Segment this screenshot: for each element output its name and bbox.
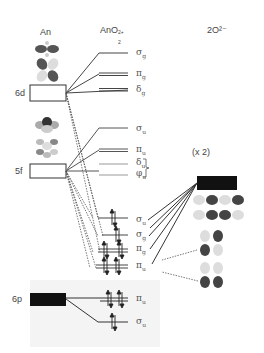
mo-label-sigma-g-bonding: σg xyxy=(136,229,146,241)
ao-label-6p: 6p xyxy=(12,294,22,304)
ao-label-6d: 6d xyxy=(15,88,25,98)
mo-label-sigma-u-5f: σu xyxy=(136,123,146,135)
mo-label-sigma-u-bonding: σu xyxy=(136,214,146,226)
mo-label-pi-g-6d: πg xyxy=(136,68,146,80)
mo-label-pi-u-bonding: πu xyxy=(136,260,146,272)
mo-label-sigma-u-6p: σu xyxy=(136,316,146,328)
ligand-orbital-pictures xyxy=(193,195,244,288)
5f-orbital-pictures xyxy=(35,117,59,158)
ligand-multiplier: (x 2) xyxy=(192,147,210,157)
6p-background xyxy=(30,280,160,347)
ao-label-5f: 5f xyxy=(15,166,23,176)
mo-label-sigma-g-6d: σg xyxy=(136,47,146,59)
mo-label-phi-u-5f: φu xyxy=(136,168,146,180)
ligand-box xyxy=(197,176,237,190)
6p-box xyxy=(30,293,66,306)
5f-box xyxy=(30,164,66,178)
mo-label-pi-u-5f: πu xyxy=(136,144,146,156)
6d-box xyxy=(30,85,66,101)
6d-orbital-pictures xyxy=(34,41,60,84)
mo-label-delta-g-6d: δg xyxy=(136,84,145,96)
mo-label-pi-u-6p: πu xyxy=(136,293,146,305)
mo-label-pi-g-bonding: πg xyxy=(136,243,146,255)
mo-diagram-lines xyxy=(0,0,264,353)
